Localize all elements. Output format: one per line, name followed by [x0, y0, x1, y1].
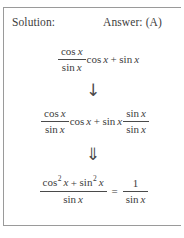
header-row: Solution: Answer: (A) [4, 16, 182, 32]
fraction-bar [123, 191, 149, 192]
fraction-numerator: cos2x+sin2x [40, 176, 107, 190]
variable-x: x [117, 115, 122, 127]
sin-function-label: sin [45, 123, 58, 135]
term-cos-x-step1: cosx [87, 53, 109, 66]
sin-function-label: sin [102, 115, 115, 127]
variable-x: x [141, 107, 146, 119]
arrow-double-down-icon: ⇓ [86, 146, 100, 163]
fraction-numerator: cosx [41, 107, 69, 120]
math-step-1: cosx sinx cosx + sinx [4, 41, 182, 77]
fraction-denominator: sinx [123, 123, 149, 136]
fraction-bar [41, 121, 69, 122]
arrow-down-icon: ↓ [86, 82, 100, 99]
answer-label: Answer: (A) [103, 16, 162, 28]
exponent-two: 2 [57, 174, 61, 183]
cos-function-label: cos [87, 53, 102, 65]
fraction-sin-over-sin-step2: sinx sinx [123, 107, 149, 136]
cos-function-label: cos [70, 115, 85, 127]
variable-x: x [99, 176, 104, 188]
sin-function-label: sin [126, 107, 139, 119]
sin-function-label: sin [126, 193, 139, 205]
fraction-denominator: sinx [123, 193, 149, 206]
arrow-double-down-row: ⇓ [4, 146, 182, 163]
sin-function-label: sin [80, 176, 93, 188]
fraction-denominator: sinx [60, 193, 86, 206]
sin-function-label: sin [63, 193, 76, 205]
sin-function-label: sin [126, 123, 139, 135]
term-cos-x-step2: cosx [70, 115, 92, 128]
fraction-numerator: 1 [130, 177, 142, 190]
arrow-single-down-row: ↓ [4, 82, 182, 99]
math-step-2: cosx sinx cosx + sinx sinx sinx [4, 103, 182, 139]
fraction-cos-over-sin-step1: cosx sinx [58, 45, 86, 74]
fraction-one-over-sin: 1 sinx [123, 177, 149, 206]
solution-panel: Solution: Answer: (A) cosx sinx cosx + s… [3, 7, 181, 226]
sin-function-label: sin [119, 53, 132, 65]
term-sin-x-step1: sinx [119, 53, 139, 66]
exponent-two: 2 [92, 174, 96, 183]
plus-operator: + [68, 177, 79, 190]
variable-x: x [78, 45, 83, 57]
variable-x: x [141, 123, 146, 135]
variable-x: x [134, 53, 139, 65]
fraction-numerator: cosx [58, 45, 86, 58]
equals-sign: = [108, 185, 122, 197]
cos-function-label: cos [44, 107, 59, 119]
fraction-pythagorean-over-sin: cos2x+sin2x sinx [40, 176, 107, 206]
fraction-denominator: sinx [42, 123, 68, 136]
variable-x: x [61, 107, 66, 119]
solution-label: Solution: [12, 16, 55, 28]
cos-function-label: cos [43, 176, 58, 188]
variable-x: x [78, 193, 83, 205]
variable-x: x [60, 123, 65, 135]
variable-x: x [141, 193, 146, 205]
cos-function-label: cos [61, 45, 76, 57]
plus-operator: + [108, 53, 119, 65]
plus-operator: + [91, 115, 102, 127]
fraction-numerator: sinx [123, 107, 149, 120]
math-step-3: cos2x+sin2x sinx = 1 sinx [4, 173, 182, 209]
fraction-cos-over-sin-step2: cosx sinx [41, 107, 69, 136]
fraction-bar [40, 191, 107, 192]
fraction-bar [123, 121, 149, 122]
sin-function-label: sin [62, 61, 75, 73]
fraction-denominator: sinx [59, 61, 85, 74]
variable-x: x [77, 61, 82, 73]
term-sin-x-step2: sinx [102, 115, 122, 128]
fraction-bar [58, 59, 86, 60]
